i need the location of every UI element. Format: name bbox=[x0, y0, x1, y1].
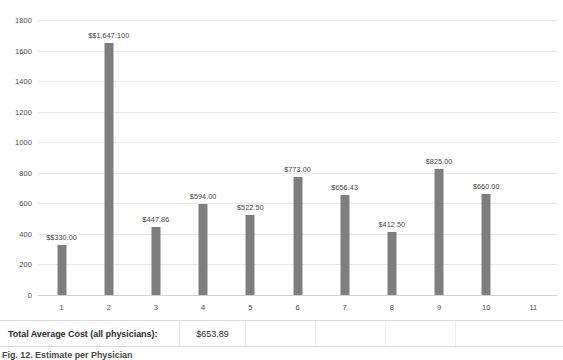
bar bbox=[435, 169, 444, 295]
bar-data-label: $$1,647.100 bbox=[88, 31, 129, 40]
x-axis-tick-label: 7 bbox=[343, 303, 347, 312]
y-axis-tick-label: 1200 bbox=[15, 107, 32, 116]
summary-label: Total Average Cost (all physicians): bbox=[8, 329, 157, 339]
x-axis-tick-label: 2 bbox=[107, 303, 111, 312]
bar bbox=[104, 43, 113, 295]
y-axis-tick-label: 1600 bbox=[15, 46, 32, 55]
bar-data-label: $$330.00 bbox=[46, 233, 77, 242]
bar-data-label: $825.00 bbox=[426, 157, 453, 166]
x-axis-tick-label: 10 bbox=[482, 303, 490, 312]
bar-data-label: $656.43 bbox=[331, 183, 358, 192]
summary-value-cell: $653.89 bbox=[180, 321, 246, 346]
y-axis-tick-label: 0 bbox=[28, 291, 32, 300]
figure-caption: Fig. 12. Estimate per Physician bbox=[2, 350, 402, 360]
bar bbox=[482, 194, 491, 295]
bar-data-label: $660.00 bbox=[473, 182, 500, 191]
bar-data-label: $412.50 bbox=[379, 220, 406, 229]
gridline bbox=[38, 142, 557, 143]
plot-area: 020040060080010001200140016001800$$330.0… bbox=[38, 20, 557, 295]
summary-table: Total Average Cost (all physicians): $65… bbox=[0, 320, 563, 347]
summary-empty-cell bbox=[456, 321, 563, 346]
bar bbox=[57, 245, 66, 295]
y-axis-tick-label: 600 bbox=[19, 199, 32, 208]
gridline bbox=[38, 81, 557, 82]
y-axis-tick-label: 400 bbox=[19, 229, 32, 238]
gridline bbox=[38, 51, 557, 52]
bar bbox=[199, 204, 208, 295]
gridline bbox=[38, 20, 557, 21]
x-axis-tick-label: 9 bbox=[437, 303, 441, 312]
x-axis-tick-label: 4 bbox=[201, 303, 205, 312]
bar bbox=[246, 215, 255, 295]
summary-empty-cell bbox=[386, 321, 456, 346]
x-axis-tick-label: 1 bbox=[59, 303, 63, 312]
gridline bbox=[38, 112, 557, 113]
bar-data-label: $773.00 bbox=[284, 165, 311, 174]
x-axis-tick-label: 11 bbox=[530, 303, 538, 312]
y-axis-tick-label: 800 bbox=[19, 168, 32, 177]
summary-value: $653.89 bbox=[196, 329, 229, 339]
bar-data-label: $522.50 bbox=[237, 203, 264, 212]
x-axis-tick-label: 6 bbox=[295, 303, 299, 312]
bar-data-label: $447.86 bbox=[143, 215, 170, 224]
x-axis-tick-label: 8 bbox=[390, 303, 394, 312]
summary-empty-cell bbox=[316, 321, 386, 346]
x-axis-tick-label: 5 bbox=[248, 303, 252, 312]
y-axis-tick-label: 1800 bbox=[15, 16, 32, 25]
y-axis-tick-label: 200 bbox=[19, 260, 32, 269]
bar bbox=[151, 227, 160, 295]
bar bbox=[387, 232, 396, 295]
summary-empty-cell bbox=[246, 321, 316, 346]
bar-data-label: $594.00 bbox=[190, 192, 217, 201]
y-axis-tick-label: 1000 bbox=[15, 138, 32, 147]
summary-label-cell: Total Average Cost (all physicians): bbox=[0, 321, 180, 346]
x-axis-tick-label: 3 bbox=[154, 303, 158, 312]
x-axis-line bbox=[38, 295, 557, 296]
bar-chart: 020040060080010001200140016001800$$330.0… bbox=[0, 0, 563, 318]
bar bbox=[340, 195, 349, 295]
y-axis-tick-label: 1400 bbox=[15, 77, 32, 86]
bar bbox=[293, 177, 302, 295]
